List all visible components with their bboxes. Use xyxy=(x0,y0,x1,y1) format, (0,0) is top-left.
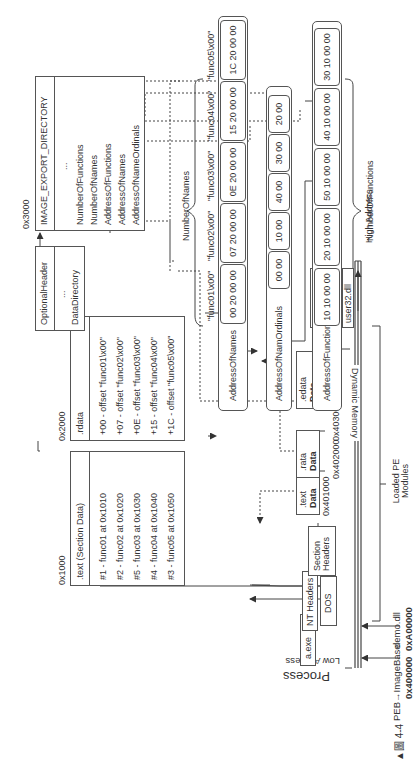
address-of-name-ordinals-label: AddressOfNamOrdinals xyxy=(275,306,284,401)
data-directory-field: DataDirectory xyxy=(71,270,80,325)
ordinals-cell: 10 00 xyxy=(268,212,290,250)
name-string: "func05\x00" xyxy=(207,31,216,81)
names-cell: 00 20 00 00 xyxy=(220,264,246,324)
rdata-section-title: .rdata xyxy=(76,412,85,435)
ordinals-cell: 40 00 xyxy=(268,173,290,211)
ordinals-cell: 30 00 xyxy=(268,134,290,172)
export-dir-offset: 0x3000 xyxy=(22,199,31,229)
dos-header-label: DOS xyxy=(324,593,333,613)
text-row: #3 - func05 at 0x1050 xyxy=(167,493,176,580)
export-directory-box: IMAGE_EXPORT_DIRECTORY ... NumberOfFunct… xyxy=(35,76,145,231)
text-section-data-box: .text (Section Data) #1 - func01 at 0x10… xyxy=(70,451,185,586)
name-string: "func01\x00" xyxy=(207,271,216,321)
export-field-address-of-names: AddressOfNames xyxy=(118,154,127,225)
rdata-section-offset: 0x2000 xyxy=(58,411,67,441)
rata-section-name: .rata xyxy=(299,453,308,471)
functions-cell: 50 10 00 00 xyxy=(314,148,340,206)
edata-section-name: .edata xyxy=(299,377,308,402)
rata-section-data: Data xyxy=(309,451,318,471)
rdata-section-box: .rdata +00 - offset "func01\x00" +07 - o… xyxy=(70,316,185,441)
pe-export-diagram: Process Low Address High Address PEB→Ima… xyxy=(0,0,416,781)
demo-dll-label: demo.dll xyxy=(392,612,402,648)
aexe-label: a.exe xyxy=(304,637,313,659)
peb-imagebase-label: PEB→ImageBase xyxy=(392,644,402,721)
section-headers-label: Section Headers xyxy=(313,527,331,571)
rata-section-box: .rata Data xyxy=(296,430,320,478)
number-of-functions-label: NumberOfFunctions xyxy=(366,160,375,241)
text-row: #4 - func04 at 0x1040 xyxy=(150,493,159,580)
address-of-names-label: AddressOfNames xyxy=(229,330,238,401)
ordinals-cell: 20 00 xyxy=(268,95,290,133)
export-field-address-of-name-ordinals: AddressOfNameOrdinals xyxy=(132,125,141,225)
name-string: "func02\x00" xyxy=(207,211,216,261)
user32-label: user32.dll xyxy=(344,284,353,323)
text-section-title: .text (Section Data) xyxy=(76,503,85,580)
optional-header-title: OptionalHeader xyxy=(40,262,49,325)
export-dir-title: IMAGE_EXPORT_DIRECTORY xyxy=(40,96,49,225)
number-of-names-label: NumberOfNames xyxy=(182,171,191,241)
export-field-address-of-functions: AddressOfFunctions xyxy=(104,143,113,225)
loaded-pe-modules-label: Loaded PE Modules xyxy=(392,451,410,511)
text-row: #2 - func02 at 0x1020 xyxy=(116,493,125,580)
export-dir-ellipsis: ... xyxy=(60,162,69,170)
functions-cell: 40 10 00 00 xyxy=(314,88,340,146)
export-field-number-of-functions: NumberOfFunctions xyxy=(76,144,85,225)
name-string: "func04\x00" xyxy=(207,91,216,141)
nt-headers-box: NT Headers xyxy=(302,571,318,631)
section-addr-rata: 0x402000 xyxy=(332,439,341,479)
rdata-row: +1C - offset "func05\x00" xyxy=(167,335,176,435)
nt-headers-label: NT Headers xyxy=(306,578,315,626)
rdata-row: +00 - offset "func01\x00" xyxy=(99,337,108,435)
names-cell: 1C 20 00 00 xyxy=(220,20,246,80)
optional-header-ellipsis: ... xyxy=(58,290,67,298)
section-addr-text: 0x401000 xyxy=(322,476,331,516)
names-cell: 15 20 00 00 xyxy=(220,81,246,141)
address-of-functions-label: AddressOfFunctions xyxy=(323,319,332,401)
functions-cell: 30 10 00 00 xyxy=(314,28,340,86)
functions-cell: 20 10 00 00 xyxy=(314,208,340,266)
names-cell: 07 20 00 00 xyxy=(220,203,246,263)
text-row: #1 - func01 at 0x1010 xyxy=(99,493,108,580)
names-cell: 0E 20 00 00 xyxy=(220,142,246,202)
export-field-number-of-names: NumberOfNames xyxy=(90,155,99,225)
text-row: #5 - func03 at 0x1030 xyxy=(133,493,142,580)
rdata-row: +0E - offset "func03\x00" xyxy=(133,336,142,435)
dynamic-memory-label: Dynamic Memory xyxy=(350,365,359,441)
optional-header-box: OptionalHeader ... DataDirectory xyxy=(35,246,85,331)
figure-caption: ▲圖 4-4 xyxy=(395,724,405,761)
peb-imagebase-address: 0x400000 xyxy=(404,657,414,699)
ordinals-cell: 00 00 xyxy=(268,251,290,289)
user32-module: user32.dll xyxy=(342,268,354,328)
name-string: "func03\x00" xyxy=(207,151,216,201)
text-section-offset: 0x1000 xyxy=(58,555,67,585)
text-section-data: Data xyxy=(309,488,318,508)
rdata-row: +15 - offset "func04\x00" xyxy=(150,337,159,435)
text-section-name: .text xyxy=(299,491,308,508)
dos-header-box: DOS xyxy=(320,576,337,626)
functions-cell: 10 10 00 00 xyxy=(314,268,340,326)
rdata-row: +07 - offset "func02\x00" xyxy=(116,337,125,435)
demo-dll-address: 0xA00000 xyxy=(404,607,414,651)
section-headers-box: Section Headers xyxy=(308,526,336,576)
process-label: Process xyxy=(283,670,330,683)
